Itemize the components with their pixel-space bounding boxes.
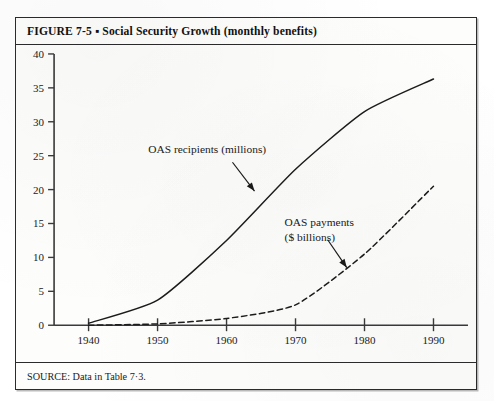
y-tick-label: 35: [33, 82, 45, 94]
figure-caption-bar: FIGURE 7-5 ▪ Social Security Growth (mon…: [16, 18, 476, 45]
annotation-label: OAS payments: [285, 216, 355, 228]
figure-caption: FIGURE 7-5 ▪ Social Security Growth (mon…: [27, 25, 317, 38]
y-tick-label: 15: [33, 218, 45, 230]
series-line-oas-recipients: [89, 79, 434, 323]
series-line-oas-payments: [89, 186, 434, 325]
x-tick-label: 1980: [353, 334, 376, 346]
figure-source-bar: SOURCE: Data in Table 7·3.: [16, 362, 476, 389]
chart-series-layer: [89, 79, 434, 325]
y-tick-label: 0: [39, 319, 45, 331]
chart-axes: [54, 54, 468, 325]
y-tick-label: 20: [33, 184, 45, 196]
x-tick-label: 1940: [78, 334, 101, 346]
figure-source-note: SOURCE: Data in Table 7·3.: [27, 371, 146, 382]
x-tick-label: 1960: [216, 334, 239, 346]
x-tick-label: 1990: [422, 334, 445, 346]
x-tick-label: 1970: [285, 334, 308, 346]
annotation-arrow-head: [247, 182, 255, 191]
y-tick-label: 40: [33, 48, 45, 60]
y-tick-label: 5: [39, 285, 45, 297]
annotation-label: OAS recipients (millions): [148, 143, 266, 156]
chart-annotations-layer: OAS recipients (millions)OAS payments($ …: [148, 143, 354, 267]
annotation-label: ($ billions): [285, 231, 336, 244]
chart-svg: 0510152025303540 19401950196019701980199…: [16, 45, 476, 362]
y-tick-label: 10: [33, 251, 45, 263]
y-axis-ticks: 0510152025303540: [33, 48, 54, 331]
x-axis-ticks: 194019501960197019801990: [78, 318, 445, 346]
annotation-arrow-head: [339, 259, 346, 268]
chart-plot-region: 0510152025303540 19401950196019701980199…: [16, 45, 476, 362]
y-tick-label: 25: [33, 150, 45, 162]
y-tick-label: 30: [33, 116, 45, 128]
x-tick-label: 1950: [147, 334, 170, 346]
figure-box: FIGURE 7-5 ▪ Social Security Growth (mon…: [15, 17, 477, 390]
